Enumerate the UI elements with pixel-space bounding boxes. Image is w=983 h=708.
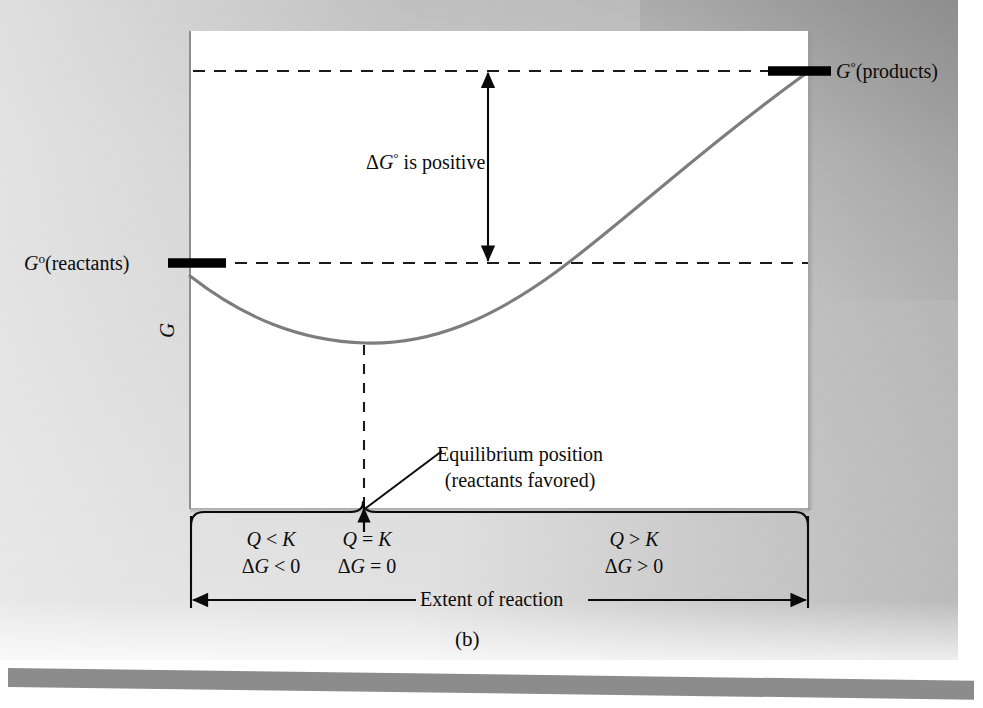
zone-right-q-row: Q > K	[568, 526, 700, 553]
figure-container: G°(products) Go(reactants) ΔG° is positi…	[0, 0, 983, 708]
label-equilibrium-position: Equilibrium position (reactants favored)	[437, 441, 603, 493]
label-g-reactants-text: (reactants)	[45, 252, 129, 274]
free-energy-curve	[190, 72, 808, 343]
zone-mid-dg-relation: = 0	[365, 555, 396, 577]
label-delta-g-standard-positive: ΔG° is positive	[366, 150, 485, 174]
equilibrium-line-2: (reactants favored)	[437, 467, 603, 493]
zone-right-dg-relation: > 0	[632, 555, 663, 577]
zone-left-delta-symbol: Δ	[242, 555, 255, 577]
label-g-standard-products: G°(products)	[836, 59, 938, 83]
zone-label-q-greater-than-k: Q > K ΔG > 0	[568, 526, 700, 580]
label-g-reactants-symbol: G	[24, 252, 38, 274]
zone-mid-q-symbol: Q	[342, 528, 356, 550]
zone-left-g-symbol: G	[255, 555, 269, 577]
zone-mid-k-symbol: K	[378, 528, 391, 550]
zone-right-g-symbol: G	[618, 555, 632, 577]
equilibrium-line-1: Equilibrium position	[437, 441, 603, 467]
zone-right-q-relation: >	[624, 528, 645, 550]
zone-right-q-symbol: Q	[609, 528, 623, 550]
zone-right-delta-symbol: Δ	[605, 555, 618, 577]
zone-mid-delta-symbol: Δ	[338, 555, 351, 577]
zone-left-q-symbol: Q	[246, 528, 260, 550]
x-axis-label: Extent of reaction	[420, 588, 563, 612]
label-delta-g-symbol: G	[379, 151, 393, 173]
zone-left-q-relation: <	[261, 528, 282, 550]
zone-mid-g-symbol: G	[351, 555, 365, 577]
equilibrium-leader-line	[366, 451, 442, 508]
zone-mid-q-relation: =	[357, 528, 378, 550]
zone-right-dg-row: ΔG > 0	[568, 553, 700, 580]
zone-label-q-equals-k: Q = K ΔG = 0	[308, 526, 426, 580]
zone-mid-dg-row: ΔG = 0	[308, 553, 426, 580]
zone-mid-q-row: Q = K	[308, 526, 426, 553]
figure-caption: (b)	[455, 627, 480, 652]
label-g-standard-reactants: Go(reactants)	[24, 251, 129, 275]
zone-left-k-symbol: K	[282, 528, 295, 550]
label-g-products-symbol: G	[836, 60, 850, 82]
label-g-products-text: (products)	[856, 60, 938, 82]
label-delta-g-text: is positive	[399, 151, 486, 173]
label-delta-symbol: Δ	[366, 151, 379, 173]
zone-right-k-symbol: K	[645, 528, 658, 550]
zone-brace	[191, 502, 808, 526]
zone-left-dg-relation: < 0	[269, 555, 300, 577]
y-axis-label: G	[155, 323, 180, 338]
